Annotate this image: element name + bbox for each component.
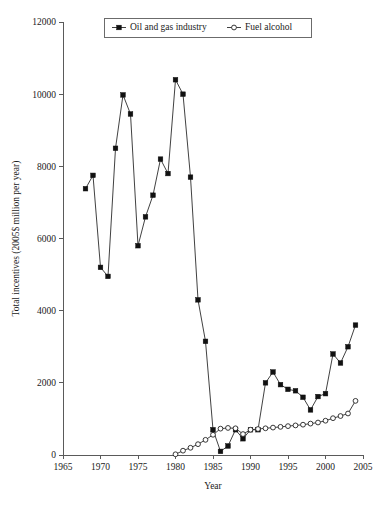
- y-tick-label: 4000: [37, 306, 56, 316]
- data-point: [331, 416, 336, 421]
- data-point: [241, 436, 246, 441]
- data-point: [301, 422, 306, 427]
- x-tick-label: 2000: [316, 462, 335, 472]
- x-axis-ticks: 196519701975198019851990199520002005: [54, 455, 373, 472]
- data-point: [286, 424, 291, 429]
- data-point: [106, 274, 111, 279]
- data-point: [203, 437, 208, 442]
- data-point: [143, 215, 148, 220]
- y-tick-label: 2000: [37, 378, 56, 388]
- y-tick-label: 12000: [32, 17, 56, 27]
- data-point: [83, 186, 88, 191]
- data-point: [293, 423, 298, 428]
- x-axis-title: Year: [204, 481, 222, 491]
- data-point: [173, 452, 178, 457]
- data-point: [308, 421, 313, 426]
- x-tick-label: 1970: [91, 462, 110, 472]
- legend-label: Oil and gas industry: [130, 22, 207, 32]
- data-point: [218, 449, 223, 454]
- legend-marker-circle-icon: [232, 25, 237, 30]
- x-tick-label: 1980: [166, 462, 185, 472]
- data-point: [196, 442, 201, 447]
- data-point: [323, 418, 328, 423]
- data-point: [316, 420, 321, 425]
- chart-container: 020004000600080001000012000 196519701975…: [0, 0, 375, 513]
- legend-marker-square-icon: [117, 25, 122, 30]
- data-point: [196, 298, 201, 303]
- data-point: [316, 394, 321, 399]
- data-point: [226, 426, 231, 431]
- data-point: [353, 323, 358, 328]
- series-layer: [83, 77, 358, 456]
- data-point: [301, 395, 306, 400]
- data-point: [211, 427, 216, 432]
- y-tick-label: 10000: [32, 90, 56, 100]
- data-point: [286, 387, 291, 392]
- data-point: [256, 427, 261, 432]
- data-point: [203, 339, 208, 344]
- data-point: [91, 173, 96, 178]
- data-point: [136, 243, 141, 248]
- data-point: [211, 432, 216, 437]
- data-point: [128, 112, 133, 117]
- data-point: [173, 77, 178, 82]
- data-point: [166, 171, 171, 176]
- data-point: [218, 426, 223, 431]
- data-point: [263, 426, 268, 431]
- data-point: [271, 425, 276, 430]
- x-tick-label: 1990: [241, 462, 260, 472]
- x-tick-label: 1985: [204, 462, 223, 472]
- y-tick-label: 6000: [37, 234, 56, 244]
- x-tick-label: 1995: [279, 462, 298, 472]
- data-point: [346, 344, 351, 349]
- data-point: [308, 408, 313, 413]
- data-point: [323, 391, 328, 396]
- data-point: [113, 146, 118, 151]
- data-point: [151, 193, 156, 198]
- data-point: [346, 411, 351, 416]
- data-point: [271, 370, 276, 375]
- data-point: [331, 352, 336, 357]
- chart-legend: Oil and gas industryFuel alcohol: [104, 18, 311, 37]
- data-point: [181, 92, 186, 97]
- data-point: [278, 382, 283, 387]
- data-point: [181, 448, 186, 453]
- data-point: [278, 424, 283, 429]
- data-point: [338, 361, 343, 366]
- y-axis-title: Total incentives (2005$ million per year…: [11, 161, 22, 317]
- data-point: [158, 157, 163, 162]
- series-2: [173, 398, 358, 456]
- data-point: [188, 445, 193, 450]
- data-point: [226, 444, 231, 449]
- legend-label: Fuel alcohol: [245, 22, 293, 32]
- data-point: [98, 265, 103, 270]
- data-point: [353, 398, 358, 403]
- x-tick-label: 1965: [54, 462, 73, 472]
- data-point: [241, 432, 246, 437]
- data-point: [248, 427, 253, 432]
- data-point: [233, 426, 238, 431]
- x-tick-label: 2005: [354, 462, 373, 472]
- data-point: [121, 93, 126, 98]
- data-point: [263, 381, 268, 386]
- data-point: [338, 414, 343, 419]
- incentives-line-chart: 020004000600080001000012000 196519701975…: [0, 0, 375, 513]
- x-tick-label: 1975: [129, 462, 148, 472]
- data-point: [293, 388, 298, 393]
- series-1: [83, 77, 358, 453]
- y-tick-label: 8000: [37, 162, 56, 172]
- y-axis-ticks: 020004000600080001000012000: [32, 17, 63, 460]
- data-point: [188, 175, 193, 180]
- y-tick-label: 0: [51, 450, 56, 460]
- series-line: [86, 80, 356, 452]
